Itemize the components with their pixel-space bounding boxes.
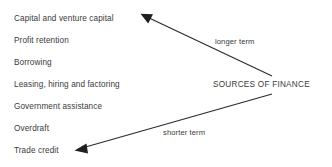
arrow-layer <box>0 0 332 167</box>
diagram-canvas: Capital and venture capital Profit reten… <box>0 0 332 167</box>
shorter-term-arrow-shaft <box>82 94 272 148</box>
longer-term-arrow-shaft <box>147 17 272 76</box>
shorter-term-arrow <box>75 94 273 154</box>
longer-term-label: longer term <box>215 37 255 46</box>
shorter-term-label: shorter term <box>163 128 205 137</box>
shorter-term-arrow-head <box>75 144 89 154</box>
